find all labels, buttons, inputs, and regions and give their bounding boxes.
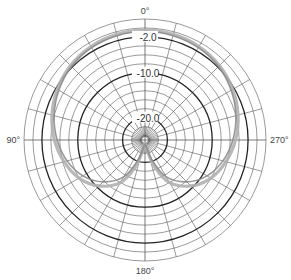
ring-label: -2.0 xyxy=(139,32,157,43)
angle-labels: 0°90°180°270° xyxy=(6,6,289,276)
angle-label: 270° xyxy=(270,135,289,145)
ring-label: -20.0 xyxy=(137,113,160,124)
polar-chart: -2.0-10.0-20.0 0°90°180°270° xyxy=(0,0,291,280)
angle-label: 0° xyxy=(141,6,150,16)
ring-label: -10.0 xyxy=(137,68,160,79)
angle-label: 90° xyxy=(6,135,20,145)
grid-spokes xyxy=(24,19,266,261)
angle-label: 180° xyxy=(136,266,155,276)
